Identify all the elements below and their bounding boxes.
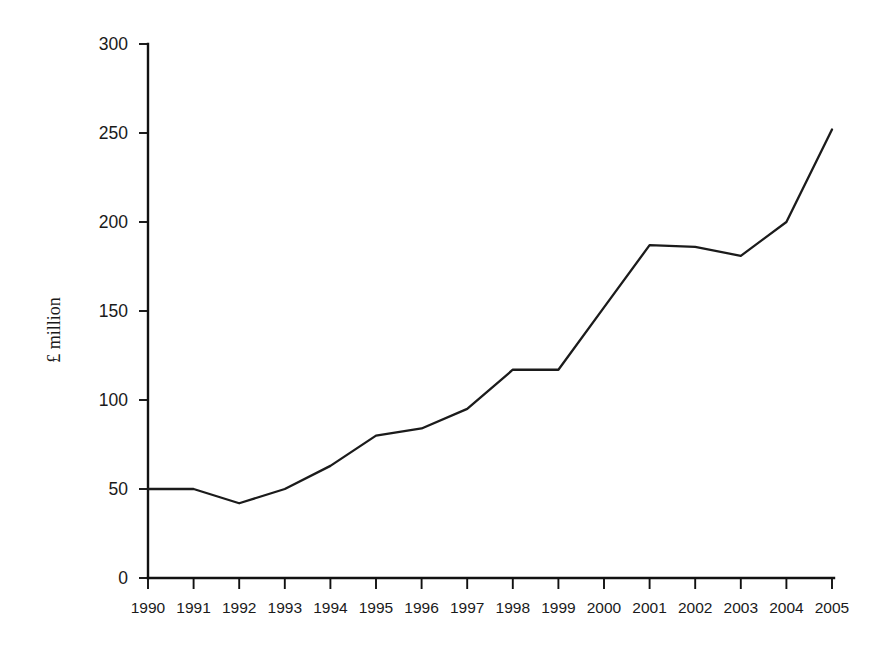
x-tick-label: 1993 (268, 599, 302, 616)
x-tick-group (148, 578, 832, 589)
y-tick-group (139, 44, 148, 578)
x-tick-label-group: 1990199119921993199419951996199719981999… (131, 599, 849, 616)
y-tick-label: 100 (99, 390, 128, 410)
y-tick-label: 0 (118, 568, 128, 588)
y-tick-label: 250 (99, 123, 128, 143)
y-tick-label: 150 (99, 301, 128, 321)
y-tick-label: 200 (99, 212, 128, 232)
x-tick-label: 1990 (131, 599, 166, 616)
x-tick-label: 2000 (587, 599, 622, 616)
y-tick-label: 300 (99, 34, 128, 54)
data-series-line (148, 129, 832, 503)
x-tick-label: 1995 (359, 599, 393, 616)
x-tick-label: 1992 (222, 599, 256, 616)
x-tick-label: 2004 (769, 599, 804, 616)
x-tick-label: 2005 (815, 599, 849, 616)
x-tick-label: 1991 (176, 599, 210, 616)
x-tick-label: 1994 (313, 599, 348, 616)
chart-canvas: 050100150200250300 199019911992199319941… (0, 0, 884, 654)
x-tick-label: 1997 (450, 599, 484, 616)
x-tick-label: 1999 (541, 599, 575, 616)
y-tick-label-group: 050100150200250300 (99, 34, 128, 588)
x-tick-label: 2002 (678, 599, 712, 616)
x-tick-label: 2003 (724, 599, 758, 616)
line-chart: 050100150200250300 199019911992199319941… (0, 0, 884, 654)
x-tick-label: 1998 (496, 599, 530, 616)
axes-group (148, 44, 834, 578)
x-tick-label: 2001 (632, 599, 666, 616)
y-tick-label: 50 (109, 479, 129, 499)
x-tick-label: 1996 (404, 599, 438, 616)
y-axis-title: £ million (44, 297, 64, 363)
